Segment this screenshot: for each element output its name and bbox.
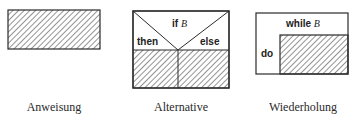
do-label: do: [261, 48, 273, 59]
caption-anweisung: Anweisung: [27, 100, 82, 115]
then-label: then: [137, 36, 158, 47]
loop-body-hatched: [280, 35, 348, 74]
while-condition-label: while B: [286, 18, 320, 29]
caption-alternative: Alternative: [154, 100, 208, 115]
else-label: else: [200, 36, 219, 47]
else-branch-hatched: [178, 50, 229, 88]
caption-wiederholung: Wiederholung: [269, 100, 337, 115]
then-branch-hatched: [133, 50, 178, 88]
if-condition-label: if B: [172, 18, 187, 29]
statement-block: [8, 10, 100, 49]
statement-hatched-box: [8, 10, 100, 49]
